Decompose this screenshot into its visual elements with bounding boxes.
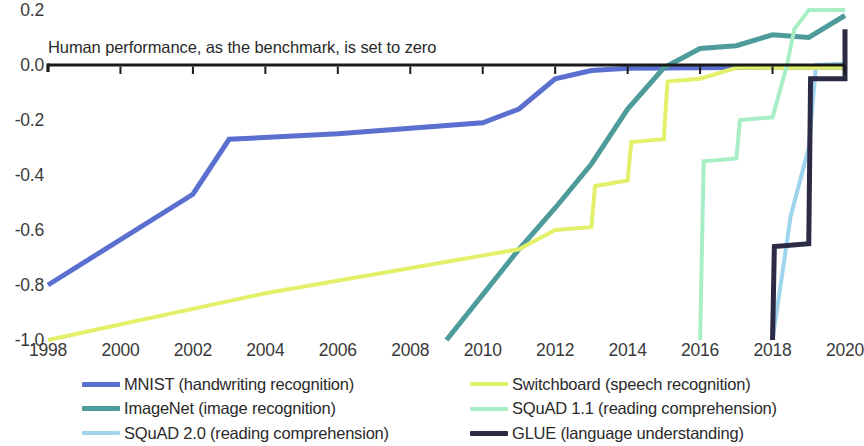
x-tick-label-2002: 2002: [174, 340, 212, 361]
x-tick-label-1998: 1998: [29, 340, 67, 361]
legend-item[interactable]: SQuAD 2.0 (reading comprehension): [82, 421, 389, 446]
legend-color-swatch: [82, 431, 120, 435]
legend-item[interactable]: SQuAD 1.1 (reading comprehension): [470, 397, 777, 422]
legend-item-label: SQuAD 2.0 (reading comprehension): [124, 424, 389, 443]
x-tick-label-2010: 2010: [464, 340, 502, 361]
legend-color-swatch: [470, 382, 508, 386]
legend-item-label: GLUE (language understanding): [512, 424, 744, 443]
legend-color-swatch: [82, 406, 120, 411]
legend-item[interactable]: Switchboard (speech recognition): [470, 372, 777, 397]
x-tick-label-2000: 2000: [101, 340, 139, 361]
legend-item[interactable]: MNIST (handwriting recognition): [82, 372, 389, 397]
legend-item[interactable]: GLUE (language understanding): [470, 421, 777, 446]
x-tick-label-2018: 2018: [753, 340, 791, 361]
legend-item[interactable]: ImageNet (image recognition): [82, 397, 389, 422]
x-tick-label-2006: 2006: [319, 340, 357, 361]
chart-legend: MNIST (handwriting recognition)ImageNet …: [0, 372, 862, 446]
x-tick-label-2008: 2008: [391, 340, 429, 361]
legend-column-right: Switchboard (speech recognition)SQuAD 1.…: [470, 372, 777, 446]
legend-item-label: Switchboard (speech recognition): [512, 375, 750, 394]
legend-column-left: MNIST (handwriting recognition)ImageNet …: [82, 372, 389, 446]
x-tick-label-2012: 2012: [536, 340, 574, 361]
legend-item-label: MNIST (handwriting recognition): [124, 375, 354, 394]
x-tick-label-2004: 2004: [246, 340, 284, 361]
x-tick-label-2016: 2016: [681, 340, 719, 361]
x-tick-label-2020: 2020: [826, 340, 864, 361]
legend-item-label: SQuAD 1.1 (reading comprehension): [512, 399, 777, 418]
legend-color-swatch: [470, 431, 508, 436]
x-tick-label-2014: 2014: [609, 340, 647, 361]
benchmark-annotation: Human performance, as the benchmark, is …: [48, 38, 436, 57]
legend-item-label: ImageNet (image recognition): [124, 399, 336, 418]
legend-color-swatch: [470, 407, 508, 411]
legend-color-swatch: [82, 382, 120, 387]
